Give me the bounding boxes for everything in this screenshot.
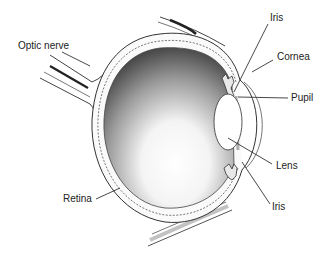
label-lens: Lens [276, 160, 298, 172]
eye-diagram [0, 0, 327, 258]
label-optic-nerve: Optic nerve [18, 40, 69, 52]
label-iris-bottom: Iris [272, 201, 285, 213]
label-cornea: Cornea [277, 51, 310, 63]
label-pupil: Pupil [291, 92, 313, 104]
label-iris-top: Iris [270, 12, 283, 24]
lens [214, 94, 242, 150]
label-retina: Retina [63, 193, 92, 205]
